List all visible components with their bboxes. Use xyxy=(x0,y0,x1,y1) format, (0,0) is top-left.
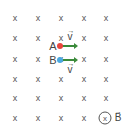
field-cross-symbol: x xyxy=(82,75,87,84)
field-cross-symbol: x xyxy=(13,14,18,23)
field-cross-symbol: x xyxy=(13,55,18,64)
particle-label-a: A xyxy=(49,41,56,52)
velocity-label: →v xyxy=(68,65,73,75)
field-cross-symbol: x xyxy=(36,114,41,123)
field-cross-symbol: x xyxy=(13,94,18,103)
field-cross-symbol: x xyxy=(13,75,18,84)
field-cross-symbol: x xyxy=(82,94,87,103)
field-cross-symbol: x xyxy=(104,75,109,84)
field-cross-symbol: x xyxy=(36,34,41,43)
field-cross-symbol: x xyxy=(82,14,87,23)
field-cross-symbol: x xyxy=(13,114,18,123)
field-into-page-icon: x xyxy=(99,112,112,125)
field-cross-symbol: x xyxy=(59,75,64,84)
field-cross-symbol: x xyxy=(59,14,64,23)
field-cross-symbol: x xyxy=(36,75,41,84)
particle-dot-a xyxy=(57,43,63,49)
field-cross-symbol: x xyxy=(104,34,109,43)
field-cross-symbol: x xyxy=(104,55,109,64)
velocity-label: →v xyxy=(68,32,73,42)
particle-label-b: B xyxy=(49,55,56,66)
field-cross-symbol: x xyxy=(82,34,87,43)
field-cross-symbol: x xyxy=(82,55,87,64)
field-cross-symbol: x xyxy=(36,94,41,103)
field-cross-symbol: x xyxy=(36,14,41,23)
field-cross-symbol: x xyxy=(36,55,41,64)
particle-dot-b xyxy=(57,57,63,63)
field-cross-symbol: x xyxy=(82,114,87,123)
magnetic-field-label: →B xyxy=(115,113,122,123)
field-cross-symbol: x xyxy=(59,34,64,43)
field-cross-symbol: x xyxy=(104,14,109,23)
field-cross-symbol: x xyxy=(59,94,64,103)
field-cross-symbol: x xyxy=(13,34,18,43)
field-cross-symbol: x xyxy=(59,114,64,123)
field-cross-symbol: x xyxy=(104,94,109,103)
